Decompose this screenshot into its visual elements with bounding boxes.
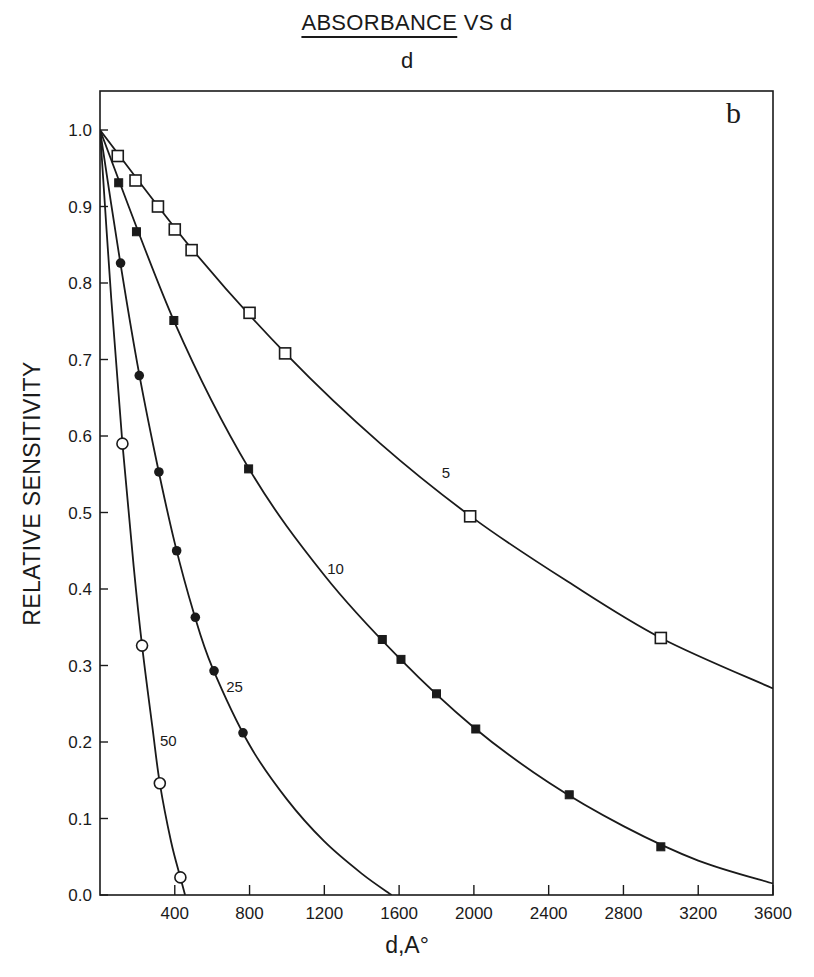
open-square-marker [112,151,123,162]
y-tick-label: 0.1 [68,810,92,829]
filled-square-marker [565,791,573,799]
filled-square-marker [170,316,178,324]
y-tick-label: 0.2 [68,733,92,752]
plot-area: 40080012001600200024002800320036000.00.1… [0,0,814,977]
filled-square-marker [472,725,480,733]
x-tick-label: 400 [161,904,189,923]
y-tick-label: 0.4 [68,580,92,599]
series-curve-10 [100,130,773,884]
filled-circle-marker [172,546,182,556]
open-square-marker [465,511,476,522]
open-square-marker [169,224,180,235]
x-tick-label: 800 [235,904,263,923]
y-tick-label: 0.3 [68,657,92,676]
x-tick-label: 2000 [455,904,493,923]
y-tick-label: 0.5 [68,504,92,523]
filled-square-marker [378,635,386,643]
filled-square-marker [245,465,253,473]
y-tick-label: 0.0 [68,886,92,905]
open-square-marker [244,307,255,318]
open-square-marker [152,201,163,212]
filled-square-marker [397,655,405,663]
plot-frame [100,91,773,895]
filled-square-marker [657,843,665,851]
filled-square-marker [132,228,140,236]
panel-label: b [726,96,741,130]
curve-label-5: 5 [442,464,450,481]
open-circle-marker [154,778,165,789]
open-circle-marker [137,640,148,651]
curve-label-25: 25 [226,678,243,695]
open-square-marker [186,245,197,256]
filled-circle-marker [238,728,248,738]
open-square-marker [130,175,141,186]
x-tick-label: 1600 [380,904,418,923]
open-square-marker [655,632,666,643]
y-tick-label: 0.7 [68,351,92,370]
open-square-marker [280,348,291,359]
filled-circle-marker [209,666,219,676]
filled-circle-marker [134,371,144,381]
y-tick-label: 1.0 [68,121,92,140]
filled-circle-marker [116,258,126,268]
x-tick-label: 3200 [679,904,717,923]
y-tick-label: 0.9 [68,198,92,217]
filled-circle-marker [154,467,164,477]
x-tick-label: 2800 [605,904,643,923]
y-tick-label: 0.6 [68,427,92,446]
filled-square-marker [115,179,123,187]
x-tick-label: 2400 [530,904,568,923]
filled-square-marker [433,690,441,698]
x-tick-label: 3600 [754,904,792,923]
filled-circle-marker [191,613,201,623]
open-circle-marker [117,438,128,449]
curve-label-50: 50 [160,732,177,749]
curve-label-10: 10 [327,560,344,577]
series-curve-5 [100,130,773,688]
y-tick-label: 0.8 [68,274,92,293]
x-tick-label: 1200 [305,904,343,923]
open-circle-marker [175,872,186,883]
